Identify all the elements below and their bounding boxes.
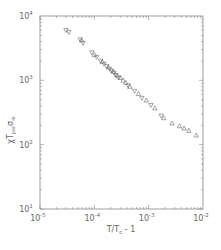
triangle-up-marker bbox=[170, 121, 174, 125]
triangle-up-marker bbox=[128, 84, 132, 88]
x-tick-label: 10-4 bbox=[84, 212, 100, 223]
triangle-up-marker bbox=[194, 133, 198, 137]
triangle-up-marker bbox=[144, 98, 148, 102]
y-tick-label: 101 bbox=[19, 203, 33, 214]
x-tick-labels: 10-510-410-310-2 bbox=[30, 212, 209, 223]
y-tick-label: 104 bbox=[19, 10, 33, 21]
x-tick-label: 10-5 bbox=[30, 212, 46, 223]
triangle-up-marker bbox=[187, 128, 191, 132]
triangle-down-marker bbox=[132, 89, 136, 93]
x-tick-label: 10-3 bbox=[139, 212, 155, 223]
x-axis-label: T/Tc - 1 bbox=[106, 225, 136, 235]
triangle-up-marker bbox=[121, 78, 125, 82]
triangle-up-marker bbox=[182, 126, 186, 130]
triangle-down-marker bbox=[67, 30, 71, 34]
triangle-up-marker bbox=[153, 106, 157, 110]
plot-frame bbox=[40, 16, 203, 209]
y-tick-labels: 101102103104 bbox=[19, 10, 33, 214]
data-points bbox=[64, 29, 199, 138]
log-log-scatter-chart: 10-510-410-310-2 101102103104 T/Tc - 1 χ… bbox=[0, 0, 221, 250]
y-tick-label: 103 bbox=[19, 74, 33, 85]
triangle-down-marker bbox=[149, 103, 153, 107]
triangle-down-marker bbox=[140, 96, 144, 100]
triangle-up-marker bbox=[177, 124, 181, 128]
triangle-down-marker bbox=[94, 55, 98, 59]
axis-ticks bbox=[40, 16, 203, 209]
y-tick-label: 102 bbox=[19, 139, 33, 150]
x-tick-label: 10-2 bbox=[193, 212, 209, 223]
y-axis-label: χTperσin bbox=[6, 116, 17, 143]
triangle-up-marker bbox=[136, 91, 140, 95]
